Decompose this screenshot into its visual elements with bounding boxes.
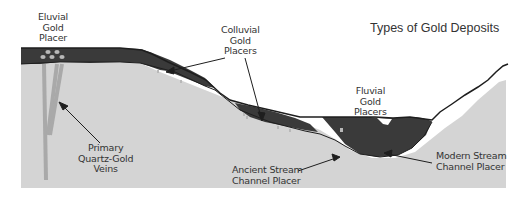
diagram-title: Types of Gold Deposits xyxy=(370,21,499,35)
label-eluvial-gold-placer: Eluvial Gold Placer xyxy=(38,12,68,44)
label-ancient-stream-channel-placer: Ancient Stream Channel Placer xyxy=(232,165,303,186)
label-colluvial-gold-placers: Colluvial Gold Placers xyxy=(221,25,260,57)
label-modern-stream-channel-placer: Modern Stream Channel Placer xyxy=(436,151,506,172)
label-fluvial-gold-placers: Fluvial Gold Placers xyxy=(354,86,387,118)
label-primary-quartz-gold-veins: Primary Quartz-Gold Veins xyxy=(78,143,133,175)
